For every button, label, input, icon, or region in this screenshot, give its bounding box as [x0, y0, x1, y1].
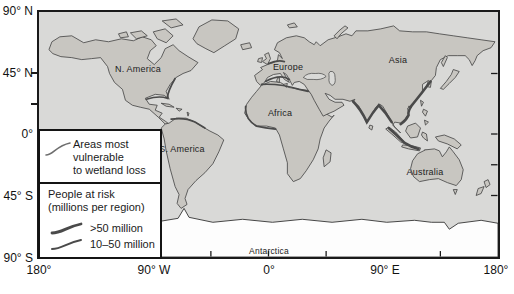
black-sea-shape [303, 73, 326, 79]
risk-10-50-label: 10–50 million [90, 238, 155, 250]
north-america-shape [49, 36, 198, 124]
caspian-sea-shape [329, 71, 335, 85]
lon-label-180e: 180° [484, 263, 509, 277]
new-guinea-shape [435, 135, 461, 149]
lon-label-90e: 90° E [370, 263, 399, 277]
south-america-shape [161, 118, 224, 208]
risk-gt50-label: >50 million [90, 222, 143, 234]
lat-label-90n: 90° N [3, 4, 33, 18]
lat-label-0: 0° [22, 127, 33, 141]
continent-label-asia: Asia [389, 55, 407, 65]
legend-risk-title: People at risk (millions per region) [48, 188, 145, 214]
lat-tick-45n [31, 72, 37, 74]
risk-10-50-line-icon [48, 238, 84, 252]
legend-vulnerable-label: Areas most vulnerable to wetland loss [73, 138, 146, 177]
lat-label-45s: 45° S [4, 189, 33, 203]
legend-box: Areas most vulnerable to wetland loss Pe… [38, 129, 162, 259]
continent-label-africa: Africa [268, 108, 292, 118]
continent-label-europe: Europe [273, 62, 303, 72]
continent-label-s-america: S. America [159, 144, 205, 154]
legend-risk-section: People at risk (millions per region) >50… [40, 184, 160, 259]
greenland-shape [193, 20, 239, 53]
lon-label-0: 0° [263, 263, 274, 277]
lat-tick-22n [31, 103, 37, 105]
continent-label-australia: Australia [407, 167, 444, 177]
vulnerable-line-icon [44, 139, 72, 159]
lon-label-180w: 180° [27, 263, 52, 277]
continent-label-antarctica: Antarctica [249, 246, 289, 256]
legend-vulnerable-entry: Areas most vulnerable to wetland loss [40, 131, 160, 184]
wetland-loss-map-figure: N. America Europe Asia Africa S. America… [0, 0, 514, 294]
lon-label-90w: 90° W [138, 263, 171, 277]
japan-shape [440, 70, 459, 90]
lat-label-45n: 45° N [3, 66, 33, 80]
risk-gt50-line-icon [48, 222, 84, 236]
continent-label-n-america: N. America [115, 64, 161, 74]
